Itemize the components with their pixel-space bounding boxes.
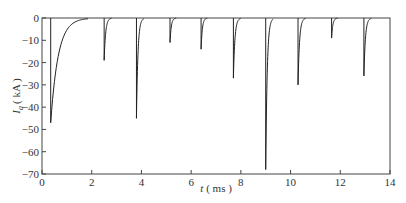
current-pulse — [364, 18, 371, 76]
x-axis-label: t( ms ) — [200, 182, 232, 195]
current-pulse — [233, 18, 240, 78]
plot-frame — [42, 18, 390, 174]
current-pulse — [266, 18, 273, 170]
current-pulse — [136, 18, 143, 118]
current-series — [51, 18, 372, 170]
plot-border — [42, 18, 390, 174]
y-tick-label: −10 — [22, 34, 40, 46]
pulse-current-chart: 0−10−20−30−40−50−60−70 02468101214 Ia( k… — [0, 0, 406, 203]
current-pulse — [332, 18, 338, 38]
y-tick-label: −50 — [22, 123, 40, 135]
y-tick-label: −30 — [22, 79, 40, 91]
x-tick-label: 2 — [89, 176, 95, 188]
current-pulse — [201, 18, 207, 49]
x-tick-label: 4 — [139, 176, 145, 188]
y-tick-label: 0 — [34, 12, 40, 24]
y-tick-label: −20 — [22, 57, 40, 69]
y-tick-label: −60 — [22, 146, 40, 158]
x-tick-label: 12 — [335, 176, 346, 188]
x-tick-label: 6 — [188, 176, 194, 188]
current-pulse — [104, 18, 111, 60]
y-tick-label: −70 — [22, 168, 40, 180]
current-pulse — [298, 18, 305, 85]
current-pulse — [51, 18, 88, 123]
x-tick-label: 14 — [385, 176, 397, 188]
x-tick-label: 0 — [39, 176, 45, 188]
current-pulse — [170, 18, 176, 43]
x-tick-label: 10 — [285, 176, 297, 188]
x-tick-label: 8 — [238, 176, 244, 188]
